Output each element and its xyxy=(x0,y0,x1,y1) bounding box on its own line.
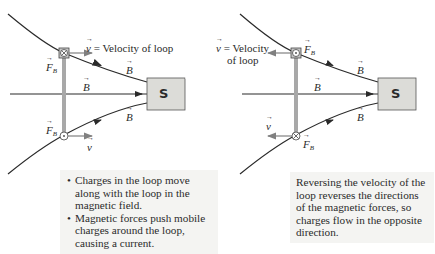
magnet-label: S xyxy=(159,86,168,101)
magnet-label: S xyxy=(391,86,400,101)
velocity-label-bottom: v xyxy=(87,141,92,153)
force-label-bottom: FB xyxy=(46,124,57,138)
force-label-top: FB xyxy=(304,43,315,57)
force-label-bottom: FB xyxy=(303,138,314,152)
field-label-bottom: B xyxy=(357,111,364,123)
caption-right: Reversing the velocity of the loop rever… xyxy=(290,172,434,243)
field-label-top: B xyxy=(126,64,133,76)
velocity-label-bottom: v xyxy=(266,120,271,132)
velocity-label: v = Velocity xyxy=(216,42,269,54)
loop-right xyxy=(294,55,298,133)
right-panel xyxy=(240,14,416,174)
force-label-top: FB xyxy=(46,61,57,75)
loop-left xyxy=(62,55,66,133)
caption-left: Charges in the loop move along with the … xyxy=(60,170,218,254)
caption-text: Reversing the velocity of the loop rever… xyxy=(296,176,430,239)
caption-item: Magnetic forces push mobile charges arou… xyxy=(75,212,214,250)
caption-item: Charges in the loop move along with the … xyxy=(75,174,214,212)
velocity-label: v = Velocity of loop xyxy=(86,42,173,54)
field-label-center: B xyxy=(83,81,90,93)
velocity-label-line2: of loop xyxy=(227,54,258,66)
field-label-center: B xyxy=(314,81,321,93)
field-label-bottom: B xyxy=(126,111,133,123)
field-label-top: B xyxy=(357,64,364,76)
